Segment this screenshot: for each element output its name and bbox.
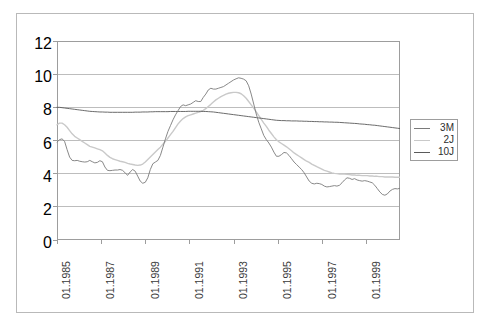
x-tick-label: 01.1999: [371, 261, 382, 299]
x-tick-label: 01.1997: [327, 261, 338, 299]
chart-legend[interactable]: 3M2J10J: [410, 119, 458, 161]
gridlines: [57, 41, 400, 207]
legend-label-10J: 10J: [433, 147, 454, 157]
legend-label-2J: 2J: [433, 135, 454, 145]
legend-entries: 3M2J10J: [411, 120, 457, 160]
y-tick-label: 8: [43, 101, 52, 119]
legend-swatch-10J: [414, 152, 430, 153]
chart-figure: 024681012 01.198501.198701.198901.199101…: [0, 0, 493, 327]
plot-canvas: [52, 41, 400, 245]
legend-entry-2J[interactable]: 2J: [411, 134, 457, 146]
axis-lines: [53, 41, 400, 244]
y-tick-label: 6: [43, 135, 52, 153]
y-tick-label: 2: [43, 201, 52, 219]
legend-swatch-3M: [414, 128, 430, 129]
legend-entry-10J[interactable]: 10J: [411, 146, 457, 158]
y-tick-label: 10: [34, 68, 52, 86]
x-tick-label: 01.1987: [105, 261, 116, 299]
series-line-10J: [57, 107, 400, 128]
y-tick-label: 0: [43, 234, 52, 252]
legend-entry-3M[interactable]: 3M: [411, 122, 457, 134]
x-tick-label: 01.1989: [150, 261, 161, 299]
x-tick-label: 01.1993: [238, 261, 249, 299]
x-tick-label: 01.1985: [61, 261, 72, 299]
x-tick-label: 01.1991: [194, 261, 205, 299]
legend-swatch-2J: [414, 140, 430, 141]
series-line-3M: [57, 78, 400, 195]
legend-label-3M: 3M: [433, 123, 454, 133]
x-axis: 01.198501.198701.198901.199101.199301.19…: [57, 243, 400, 305]
series-line-2J: [57, 92, 400, 177]
y-tick-label: 12: [34, 35, 52, 53]
y-tick-label: 4: [43, 168, 52, 186]
x-tick-label: 01.1995: [282, 261, 293, 299]
series-lines: [57, 78, 400, 195]
plot-area: [57, 41, 400, 240]
y-axis: 024681012: [30, 41, 52, 240]
